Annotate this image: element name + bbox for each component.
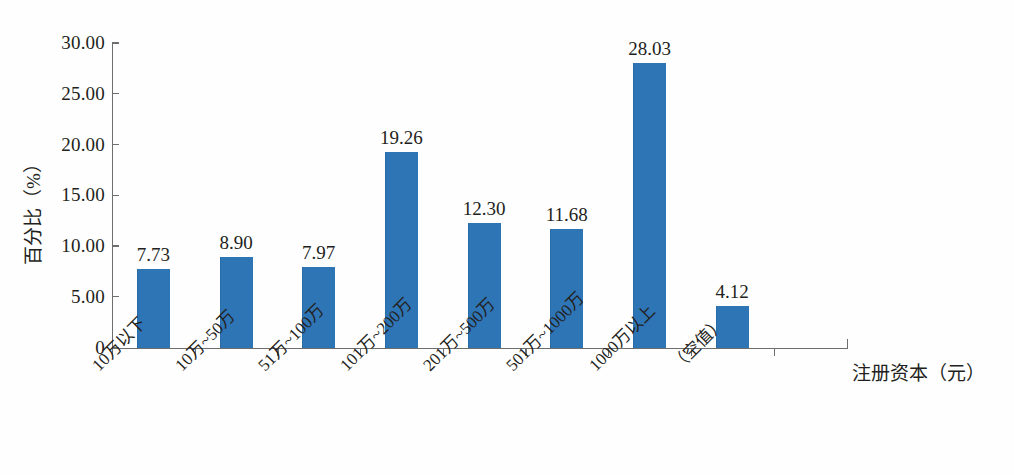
bar-chart: 05.0010.0015.0020.0025.0030.00 7.738.907… <box>0 0 1014 475</box>
bar-value-label: 7.73 <box>113 245 193 264</box>
bar-value-label: 7.97 <box>279 243 359 262</box>
bar-value-label: 8.90 <box>196 233 276 252</box>
bar-value-label: 4.12 <box>692 282 772 301</box>
y-axis-title: 百分比（%） <box>24 115 43 305</box>
bar-value-label: 19.26 <box>361 128 441 147</box>
bar <box>137 269 170 347</box>
x-axis-title: 注册资本（元） <box>852 364 985 383</box>
bar-value-label: 28.03 <box>610 39 690 58</box>
bar-value-label: 11.68 <box>527 205 607 224</box>
bar-value-label: 12.30 <box>444 199 524 218</box>
bars-layer: 7.738.907.9719.2612.3011.6828.034.12 <box>0 0 1014 475</box>
